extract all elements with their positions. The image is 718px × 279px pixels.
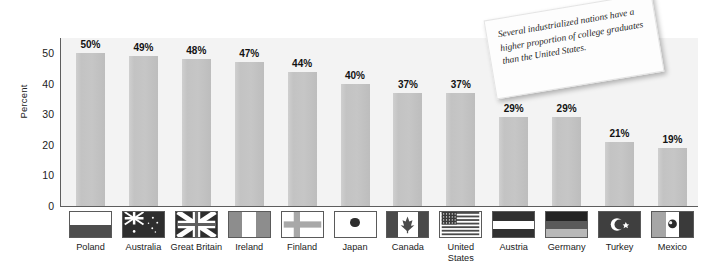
- bar-ireland: [235, 62, 264, 206]
- flag-cell-canada: Canada: [381, 211, 434, 253]
- flag-germany-icon: [545, 211, 588, 238]
- flag-canada-icon: [386, 211, 429, 238]
- y-axis-tick-50: 50: [24, 47, 54, 59]
- bar-value-label-mexico: 19%: [645, 134, 699, 145]
- flag-cell-mexico: Mexico: [646, 211, 699, 253]
- bar-value-label-germany: 29%: [540, 103, 594, 114]
- flag-label-finland: Finland: [276, 242, 329, 253]
- bar-japan: [341, 84, 370, 206]
- flag-cell-turkey: Turkey: [593, 211, 646, 253]
- y-axis-tick-10: 10: [24, 169, 54, 181]
- bar-mexico: [658, 148, 687, 206]
- bar-finland: [288, 72, 317, 206]
- x-axis-line: [60, 206, 698, 207]
- callout-note-text: Several industrialized nations have a hi…: [497, 4, 650, 69]
- y-axis-tick-0: 0: [24, 200, 54, 212]
- y-axis-tick-30: 30: [24, 108, 54, 120]
- flag-label-great-britain: Great Britain: [170, 242, 223, 253]
- bar-value-label-canada: 37%: [381, 79, 435, 90]
- bar-united-states: [446, 93, 475, 206]
- flag-cell-japan: Japan: [329, 211, 382, 253]
- flag-austria-icon: [492, 211, 535, 238]
- flag-poland-icon: [69, 211, 112, 238]
- flag-australia-icon: [122, 211, 165, 238]
- flag-cell-great-britain: Great Britain: [170, 211, 223, 253]
- bar-austria: [499, 117, 528, 206]
- y-axis-tick-40: 40: [24, 78, 54, 90]
- bar-australia: [129, 56, 158, 206]
- bar-value-label-ireland: 47%: [222, 48, 276, 59]
- flag-label-poland: Poland: [64, 242, 117, 253]
- bar-great-britain: [182, 59, 211, 206]
- flag-great-britain-icon: [175, 211, 218, 238]
- bar-turkey: [605, 142, 634, 206]
- flag-label-austria: Austria: [487, 242, 540, 253]
- flag-cell-australia: Australia: [117, 211, 170, 253]
- flag-finland-icon: [281, 211, 324, 238]
- bar-value-label-japan: 40%: [328, 70, 382, 81]
- bar-value-label-poland: 50%: [64, 39, 118, 50]
- bar-germany: [552, 117, 581, 206]
- flag-cell-poland: Poland: [64, 211, 117, 253]
- bar-poland: [76, 53, 105, 206]
- bar-value-label-australia: 49%: [116, 42, 170, 53]
- flag-label-japan: Japan: [329, 242, 382, 253]
- y-axis-tick-20: 20: [24, 139, 54, 151]
- country-flag-strip: PolandAustraliaGreat BritainIrelandFinla…: [61, 211, 698, 279]
- y-axis-tick-labels: 01020304050: [22, 0, 54, 279]
- flag-united-states-icon: [439, 211, 482, 238]
- bar-value-label-great-britain: 48%: [169, 45, 223, 56]
- flag-label-australia: Australia: [117, 242, 170, 253]
- flag-cell-ireland: Ireland: [223, 211, 276, 253]
- flag-label-germany: Germany: [540, 242, 593, 253]
- flag-cell-germany: Germany: [540, 211, 593, 253]
- flag-label-mexico: Mexico: [646, 242, 699, 253]
- bar-canada: [393, 93, 422, 206]
- flag-label-united-states: United States: [434, 242, 487, 264]
- bar-value-label-austria: 29%: [487, 103, 541, 114]
- bar-value-label-united-states: 37%: [434, 79, 488, 90]
- flag-cell-austria: Austria: [487, 211, 540, 253]
- flag-label-canada: Canada: [381, 242, 434, 253]
- flag-label-turkey: Turkey: [593, 242, 646, 253]
- flag-cell-united-states: United States: [434, 211, 487, 264]
- bar-value-label-finland: 44%: [275, 58, 329, 69]
- bar-value-label-turkey: 21%: [593, 128, 647, 139]
- flag-ireland-icon: [228, 211, 271, 238]
- flag-turkey-icon: [598, 211, 641, 238]
- flag-label-ireland: Ireland: [223, 242, 276, 253]
- flag-cell-finland: Finland: [276, 211, 329, 253]
- flag-mexico-icon: [651, 211, 694, 238]
- bar-chart: Percent 01020304050 Several industrializ…: [0, 0, 718, 279]
- flag-japan-icon: [334, 211, 377, 238]
